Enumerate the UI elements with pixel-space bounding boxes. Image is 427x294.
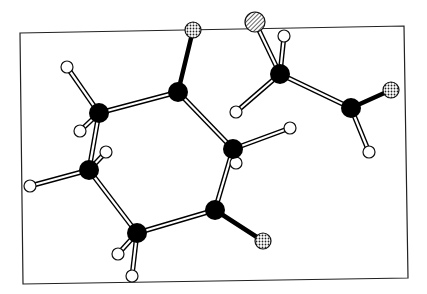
atoms bbox=[24, 12, 399, 282]
carbon-atom-c1 bbox=[89, 103, 109, 123]
frame-outline bbox=[20, 26, 408, 284]
hydrogen-atom-h4 bbox=[24, 180, 36, 192]
hydrogen-atom-h7 bbox=[230, 106, 242, 118]
hydrogen-atom-h6 bbox=[126, 270, 138, 282]
carbon-atom-c2 bbox=[168, 82, 188, 102]
oxygen-atom-o3 bbox=[383, 82, 399, 98]
carbon-atom-c5 bbox=[127, 223, 147, 243]
frame-border bbox=[20, 26, 408, 284]
oxygen-atom-o1 bbox=[185, 22, 201, 38]
carbon-atom-c4 bbox=[205, 200, 225, 220]
hydrogen-atom-h8 bbox=[284, 122, 296, 134]
bond-open-inner bbox=[178, 92, 233, 149]
hydrogen-atom-h9 bbox=[278, 30, 290, 42]
carbon-atom-c3 bbox=[223, 139, 243, 159]
hydrogen-atom-h1 bbox=[61, 61, 73, 73]
molecule-diagram bbox=[0, 0, 427, 294]
bond-open-inner bbox=[280, 74, 351, 108]
molecule-canvas bbox=[0, 0, 427, 294]
hydrogen-atom-h5 bbox=[112, 248, 124, 260]
bond-open-inner bbox=[89, 170, 137, 233]
bond-open-inner bbox=[137, 210, 215, 233]
oxygen-atom-o2 bbox=[255, 233, 271, 249]
hydrogen-atom-h11 bbox=[363, 146, 375, 158]
bond-open-inner bbox=[99, 92, 178, 113]
hydrogen-atom-h3 bbox=[100, 146, 112, 158]
bonds bbox=[30, 22, 391, 276]
hetero-atom-x1 bbox=[245, 12, 265, 32]
carbon-atom-c7 bbox=[270, 64, 290, 84]
carbon-atom-c8 bbox=[341, 98, 361, 118]
carbon-atom-c6 bbox=[79, 160, 99, 180]
hydrogen-atom-h2 bbox=[74, 125, 86, 137]
